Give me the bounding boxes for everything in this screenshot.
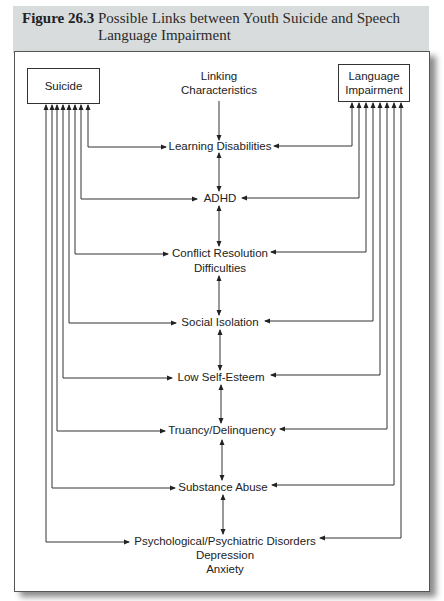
language-impairment-box: Language Impairment (338, 64, 410, 102)
language-impairment-label-line1: Language (348, 69, 399, 83)
characteristic-conflict-resolution: Conflict Resolution Difficulties (160, 246, 280, 275)
header-line1: Linking (159, 69, 279, 83)
conflict-line1: Conflict Resolution (160, 246, 280, 260)
characteristic-psychological-disorders: Psychological/Psychiatric Disorders Depr… (125, 534, 325, 576)
characteristic-truancy-delinquency: Truancy/Delinquency (162, 423, 282, 437)
characteristic-social-isolation: Social Isolation (160, 315, 280, 329)
characteristic-substance-abuse: Substance Abuse (163, 480, 283, 494)
linking-characteristics-header: Linking Characteristics (159, 69, 279, 97)
psych-line1: Psychological/Psychiatric Disorders (125, 534, 325, 548)
language-impairment-label-line2: Impairment (345, 83, 403, 97)
header-line2: Characteristics (159, 83, 279, 97)
characteristic-low-self-esteem: Low Self-Esteem (161, 370, 281, 384)
characteristic-adhd: ADHD (180, 191, 260, 205)
suicide-label: Suicide (45, 79, 83, 93)
suicide-box: Suicide (27, 68, 100, 104)
conflict-line2: Difficulties (160, 261, 280, 275)
characteristic-learning-disabilities: Learning Disabilities (160, 139, 280, 153)
psych-line2: Depression (125, 548, 325, 562)
psych-line3: Anxiety (125, 562, 325, 576)
